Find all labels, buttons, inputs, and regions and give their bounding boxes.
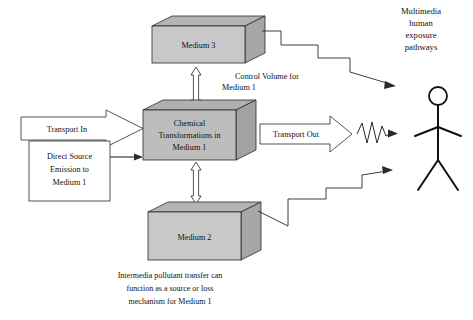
exposure-line3: exposure [405, 30, 436, 40]
zigzag-top-arrow-head [384, 81, 396, 89]
transport-out-arrow: Transport Out [260, 116, 352, 152]
exposure-pathways-label: Multimedia human exposure pathways [401, 6, 441, 52]
medium-3-box: Medium 3 [152, 16, 265, 63]
direct-source-line3: Medium 1 [53, 178, 87, 187]
medium-2-side-face [241, 202, 261, 260]
wavy-arrow-icon [357, 122, 398, 143]
center-box-line3: Medium 1 [173, 143, 207, 152]
up-down-arrow-bottom-shape [191, 162, 201, 204]
control-volume-label: Control Volume for Medium 1 [222, 72, 299, 92]
medium-2-label: Medium 2 [178, 233, 212, 242]
double-headed-arrow-icon-bottom [191, 162, 201, 204]
person-icon [415, 87, 461, 190]
person-head [429, 87, 447, 105]
multimedia-exposure-diagram: Medium 3 Control Volume for Medium 1 Che… [0, 0, 473, 320]
zigzag-pathway-arrow-icon-bottom [258, 166, 393, 226]
center-box-side-face [236, 100, 256, 160]
wavy-arrow-head [388, 130, 398, 138]
zigzag-bottom-arrow-head [382, 166, 393, 174]
center-box-line2: Transformations in [158, 131, 220, 140]
person-leg-left [418, 160, 438, 190]
medium-3-label: Medium 3 [182, 41, 216, 50]
diagram-canvas: Medium 3 Control Volume for Medium 1 Che… [0, 0, 473, 320]
person-leg-right [438, 160, 458, 190]
center-box-line1: Chemical [174, 119, 206, 128]
control-volume-line2: Medium 1 [222, 83, 256, 92]
control-volume-line1: Control Volume for [235, 72, 299, 81]
arrow-right-icon-source-head [134, 153, 143, 160]
direct-source-line1: Direct Source [47, 152, 93, 161]
center-box: Chemical Transformations in Medium 1 [143, 100, 256, 160]
person-arm-left [415, 127, 438, 136]
exposure-line2: human [409, 18, 433, 28]
exposure-line4: pathways [405, 42, 438, 52]
wavy-arrow-path [357, 122, 392, 143]
person-arm-right [438, 127, 461, 136]
transport-out-label: Transport Out [273, 130, 320, 139]
caption-line1: Intermedia pollutant transfer can [118, 271, 223, 280]
direct-source-line2: Emission to [50, 165, 89, 174]
medium-2-box: Medium 2 [148, 202, 261, 260]
caption-line2: function as a source or loss [127, 284, 214, 293]
exposure-line1: Multimedia [401, 6, 441, 16]
direct-source-box: Direct Source Emission to Medium 1 [29, 141, 143, 201]
caption: Intermedia pollutant transfer can functi… [118, 271, 223, 306]
zigzag-bottom-path [258, 171, 387, 226]
caption-line3: mechanism for Medium 1 [129, 297, 212, 306]
transport-in-label: Transport In [47, 125, 87, 134]
